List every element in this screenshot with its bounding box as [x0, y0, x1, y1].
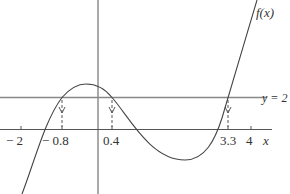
- dashed-arrow-0-4: [109, 100, 115, 127]
- tick-label-3-3: 3.3: [220, 133, 236, 148]
- tick-label-minus-0-8: − 0.8: [42, 133, 69, 148]
- tick-label-minus-2: − 2: [6, 133, 23, 148]
- tick-label-4: 4: [246, 133, 253, 148]
- function-graph-diagram: − 2 − 0.8 0.4 3.3 4 x f(x) y = 2: [0, 0, 290, 194]
- line-label-y-equals-2: y = 2: [261, 91, 287, 105]
- curve-label: f(x): [256, 5, 274, 20]
- x-axis-label: x: [262, 133, 269, 148]
- tick-label-0-4: 0.4: [103, 133, 120, 148]
- dashed-arrow-minus-0-8: [59, 100, 65, 127]
